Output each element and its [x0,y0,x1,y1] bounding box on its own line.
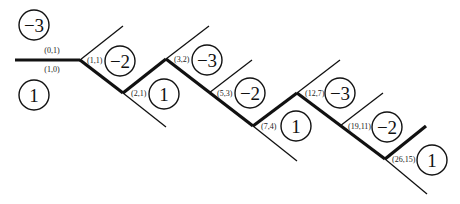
node-label: (12,7) [305,89,325,98]
svg-text:−2: −2 [377,117,397,138]
region-circle: −3 [325,78,355,108]
svg-text:−2: −2 [110,51,130,72]
node-label: (19,11) [348,122,371,131]
region-circle: −3 [192,45,222,75]
node-label: (7,4) [261,122,277,131]
svg-text:−3: −3 [197,50,217,71]
edge-label-bottom: (1,0) [44,65,60,74]
node-label: (2,1) [131,89,147,98]
region-circle: 1 [19,80,49,110]
svg-text:1: 1 [427,150,437,171]
node-label: (26,15) [392,155,416,164]
svg-text:−3: −3 [330,83,350,104]
node-label: (3,2) [174,55,190,64]
region-circle: −3 [19,10,49,40]
region-circle: −2 [235,78,265,108]
zigzag-diagram: (0,1) (1,0) (1,1) (2,1) (3,2) (5,3) (7,4… [0,0,460,204]
region-circle: 1 [281,111,311,141]
region-circle: −2 [105,46,135,76]
region-circle: −2 [372,112,402,142]
thick-path [15,59,426,159]
edge-label-top: (0,1) [44,46,60,55]
svg-text:−3: −3 [24,15,44,36]
svg-text:1: 1 [29,85,39,106]
region-circle: 1 [417,145,447,175]
node-label: (1,1) [87,56,103,65]
svg-text:1: 1 [159,84,169,105]
region-circle: 1 [149,79,179,109]
svg-text:1: 1 [291,116,301,137]
svg-text:−2: −2 [240,83,260,104]
node-label: (5,3) [217,89,233,98]
